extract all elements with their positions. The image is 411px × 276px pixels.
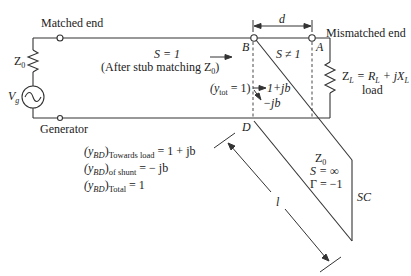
arrow-toward-load-icon xyxy=(259,86,266,91)
point-b-label: B xyxy=(242,41,249,53)
generator-terminal-icon xyxy=(58,116,63,121)
toward-load-admittance-label: 1+jb xyxy=(267,82,290,94)
short-circuit-label: SC xyxy=(357,191,371,203)
swr-mismatched-label: S ≠ 1 xyxy=(276,48,301,60)
load-resistor-icon xyxy=(325,62,335,93)
matched-end-label: Matched end xyxy=(41,17,103,29)
mismatched-end-label: Mismatched end xyxy=(326,27,406,39)
after-stub-label: (After stub matching Z0) xyxy=(101,61,219,76)
stub-swr-label: S = ∞ xyxy=(310,165,339,177)
distance-d-label: d xyxy=(279,13,285,25)
stub-matching-diagram xyxy=(0,0,411,276)
matched-end-terminal-icon xyxy=(57,35,63,41)
source-impedance-label: Z0 xyxy=(14,55,25,70)
equation-of-shunt: (yBD)of shunt = − jb xyxy=(84,162,168,177)
shunt-admittance-label: −jb xyxy=(263,97,280,109)
stub-length-label: l xyxy=(276,196,279,208)
equation-towards-load: (yBD)Towards load = 1 + jb xyxy=(84,145,195,160)
forward-arrow-icon xyxy=(210,55,232,60)
length-tick-bottom xyxy=(320,257,341,272)
stub-gamma-label: Γ = −1 xyxy=(310,178,342,190)
point-d-label: D xyxy=(242,121,251,133)
sine-wave-icon xyxy=(25,93,41,102)
point-a-terminal-icon xyxy=(309,35,315,41)
equation-total: (yBD)Total = 1 xyxy=(84,179,145,194)
load-label: load xyxy=(362,84,383,96)
y-tot-label: (ytot = 1) xyxy=(210,82,251,97)
point-a-label: A xyxy=(316,41,323,53)
source-resistor-icon xyxy=(28,50,38,72)
source-voltage-label: Vg xyxy=(8,90,19,105)
swr-matched-label: S = 1 xyxy=(154,48,180,60)
arrow-shunt-icon xyxy=(255,93,261,100)
short-circuit-stub xyxy=(254,40,352,241)
generator-label: Generator xyxy=(40,123,88,135)
